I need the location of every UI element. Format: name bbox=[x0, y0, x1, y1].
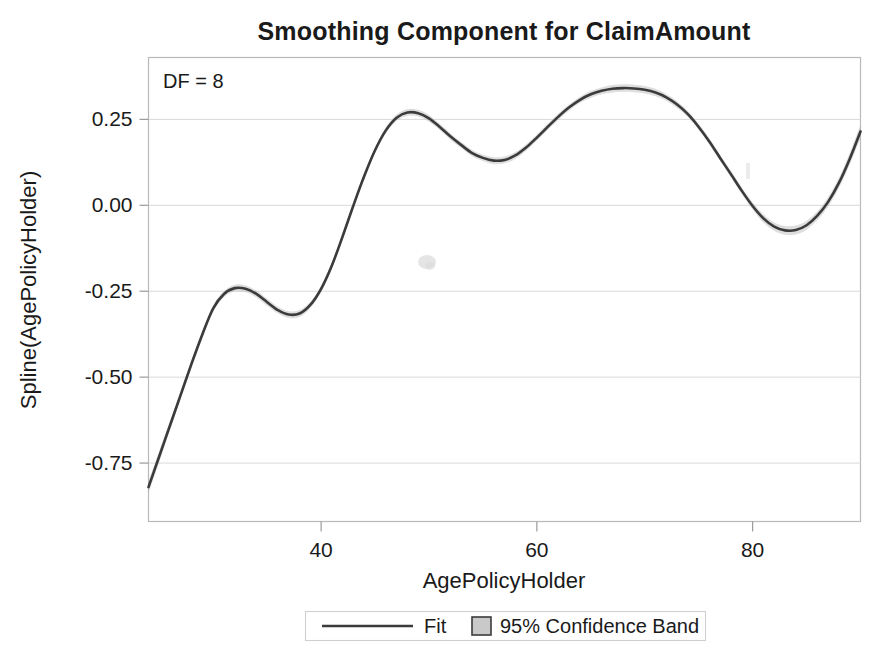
y-tick-label: 0.25 bbox=[92, 107, 133, 130]
legend-band-swatch bbox=[472, 617, 491, 635]
y-tick-label: -0.75 bbox=[85, 451, 133, 474]
y-axis-title: Spline(AgePolicyHolder) bbox=[16, 171, 41, 409]
x-tick-label: 40 bbox=[309, 538, 332, 561]
y-axis-ticks: 0.250.00-0.25-0.50-0.75 bbox=[85, 107, 149, 474]
plot-area-frame bbox=[149, 58, 861, 522]
chart-title: Smoothing Component for ClaimAmount bbox=[257, 17, 751, 45]
y-tick-label: 0.00 bbox=[92, 193, 133, 216]
x-tick-label: 60 bbox=[525, 538, 548, 561]
df-annotation: DF = 8 bbox=[163, 70, 224, 92]
chart-figure: Smoothing Component for ClaimAmount 0.25… bbox=[0, 0, 869, 656]
x-axis-title: AgePolicyHolder bbox=[423, 568, 586, 593]
legend-fit-label: Fit bbox=[424, 615, 447, 637]
chart-legend: Fit 95% Confidence Band bbox=[306, 612, 706, 641]
scan-smudge-small bbox=[425, 262, 435, 270]
y-tick-label: -0.25 bbox=[85, 279, 133, 302]
scan-artifacts bbox=[418, 163, 750, 270]
fit-line bbox=[149, 88, 861, 487]
confidence-band-area bbox=[149, 84, 861, 493]
x-tick-label: 80 bbox=[741, 538, 764, 561]
legend-band-label: 95% Confidence Band bbox=[500, 615, 699, 637]
x-axis-ticks: 406080 bbox=[309, 522, 764, 561]
smoothing-component-chart: Smoothing Component for ClaimAmount 0.25… bbox=[0, 0, 869, 656]
y-tick-label: -0.50 bbox=[85, 365, 133, 388]
scan-streak bbox=[746, 163, 750, 179]
